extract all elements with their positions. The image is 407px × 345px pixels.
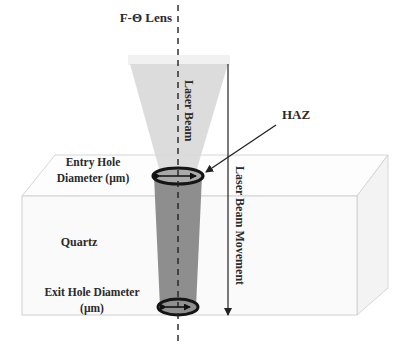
material-label: Quartz [61,235,98,249]
beam-movement-label: Laser Beam Movement [233,166,247,285]
lens-label: F-Θ Lens [120,10,172,25]
entry-hole-label-line2: Diameter (µm) [57,172,130,185]
laser-beam-label: Laser Beam [182,80,196,141]
lens-band [128,55,230,65]
laser-drilling-diagram: F-Θ Lens Laser Beam HAZ Entry Hole Diame… [0,0,407,345]
exit-hole-label-line2: (µm) [80,302,104,315]
entry-hole-label-line1: Entry Hole [66,156,121,169]
exit-hole-label-line1: Exit Hole Diameter [44,286,139,298]
haz-label: HAZ [282,107,311,122]
